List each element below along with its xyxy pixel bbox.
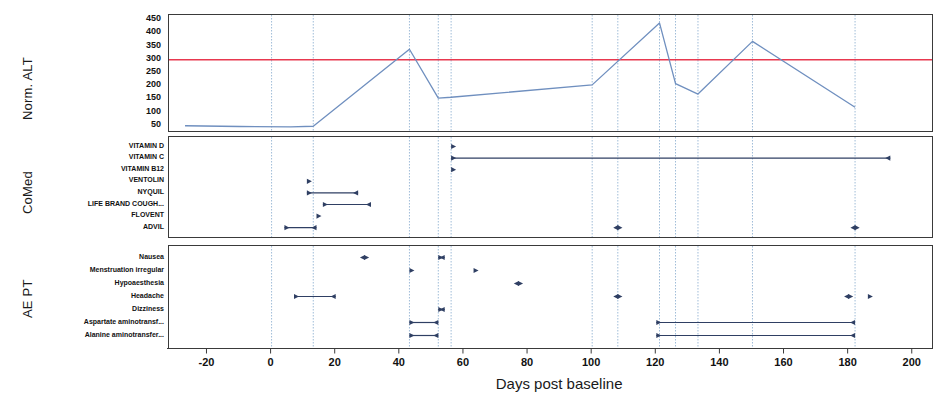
category-label-vitamin-b12: VITAMIN B12 [0,165,164,173]
category-label-ventolin: VENTOLIN [0,176,164,184]
x-tick-label--20: -20 [186,356,226,368]
event-aspartate-aminotransf-11-start-cap [656,320,661,325]
event-headache-5-start-cap [294,294,299,299]
alt-y-tick-250: 250 [127,67,161,76]
event-hypoaesthesia-4-end-cap [514,281,519,286]
panel-comed [168,136,933,238]
alt-y-tick-400: 400 [127,27,161,36]
event-menstruation-irregular-2-start-cap [409,268,414,273]
event-nausea-0-end-cap [360,255,365,260]
x-tick-label-20: 20 [315,356,355,368]
event-alanine-aminotransfer-12-end-cap [433,333,438,338]
event-aspartate-aminotransf-10-end-cap [433,320,438,325]
event-menstruation-irregular-3-start-cap [474,268,479,273]
clinical-patient-profile-figure: Norm. ALT CoMed AE PT 450400350300250200… [0,0,946,403]
event-nyquil-4-end-cap [353,190,358,195]
x-tick-label-200: 200 [892,356,932,368]
category-label-vitamin-c: VITAMIN C [0,153,164,161]
alt-y-tick-200: 200 [127,80,161,89]
alt-y-tick-350: 350 [127,41,161,50]
x-axis: -20020406080100120140160180200 [167,348,932,374]
event-ventolin-3-start-cap [307,179,312,184]
event-advil-9-end-cap [850,225,855,230]
event-alanine-aminotransfer-13-end-cap [850,333,855,338]
x-tick-label-160: 160 [764,356,804,368]
event-headache-8-start-cap [868,294,873,299]
x-tick-label-0: 0 [251,356,291,368]
x-tick-label-80: 80 [507,356,547,368]
category-label-headache: Headache [0,292,164,300]
alt-y-tick-50: 50 [127,120,161,129]
event-aspartate-aminotransf-10-start-cap [409,320,414,325]
event-life-brand-cough-5-end-cap [366,202,371,207]
alt-y-tick-450: 450 [127,14,161,23]
event-headache-6-end-cap [613,294,618,299]
event-vitamin-c-1-end-cap [885,156,890,161]
alt-y-tick-150: 150 [127,93,161,102]
event-nausea-1-end-cap [440,255,445,260]
x-tick-label-120: 120 [635,356,675,368]
x-tick-label-60: 60 [443,356,483,368]
category-label-aspartate-aminotransf: Aspartate aminotransf... [0,318,164,326]
event-vitamin-d-0-start-cap [451,144,456,149]
event-alanine-aminotransfer-12-start-cap [409,333,414,338]
x-tick-label-40: 40 [379,356,419,368]
event-aspartate-aminotransf-11-end-cap [850,320,855,325]
alt-series-line-0 [185,23,855,127]
category-label-menstruation-irregular: Menstruation irregular [0,266,164,274]
event-headache-7-end-cap [844,294,849,299]
category-label-alanine-aminotransfer: Alanine aminotransfer... [0,331,164,339]
panel-norm-alt [168,14,933,132]
x-tick-label-180: 180 [828,356,868,368]
category-label-vitamin-d: VITAMIN D [0,142,164,150]
comed-timeline-plot [169,137,932,237]
ae-pt-timeline-plot [169,246,932,348]
category-label-nyquil: NYQUIL [0,188,164,196]
category-label-flovent: FLOVENT [0,211,164,219]
panel-title-norm-alt: Norm. ALT [20,57,35,120]
event-advil-8-end-cap [613,225,618,230]
event-dizziness-9-end-cap [440,307,445,312]
event-life-brand-cough-5-start-cap [323,202,328,207]
event-vitamin-c-1-start-cap [451,156,456,161]
category-label-advil: ADVIL [0,223,164,231]
event-advil-7-start-cap [284,225,289,230]
norm-alt-line-plot [169,15,932,131]
category-label-hypoaesthesia: Hypoaesthesia [0,279,164,287]
event-alanine-aminotransfer-13-start-cap [656,333,661,338]
category-label-dizziness: Dizziness [0,305,164,313]
event-nyquil-4-start-cap [307,190,312,195]
category-label-nausea: Nausea [0,253,164,261]
alt-y-tick-100: 100 [127,107,161,116]
event-advil-7-end-cap [311,225,316,230]
x-tick-label-100: 100 [571,356,611,368]
event-headache-5-end-cap [331,294,336,299]
event-vitamin-b12-2-start-cap [451,167,456,172]
x-tick-label-140: 140 [699,356,739,368]
category-label-life-brand-cough: LIFE BRAND COUGH... [0,200,164,208]
x-axis-title: Days post baseline [409,375,709,392]
alt-y-tick-300: 300 [127,54,161,63]
event-flovent-6-start-cap [316,214,321,219]
panel-ae-pt [168,245,933,349]
